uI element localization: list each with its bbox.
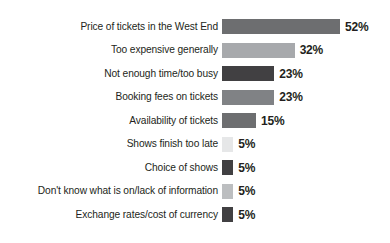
category-label: Choice of shows bbox=[145, 162, 218, 172]
bar bbox=[222, 160, 233, 175]
bar bbox=[222, 113, 256, 128]
chart-row: Choice of shows5% bbox=[0, 160, 390, 175]
bar bbox=[222, 184, 233, 199]
chart-row: Too expensive generally32% bbox=[0, 43, 390, 58]
bar bbox=[222, 207, 233, 222]
value-label: 15% bbox=[261, 114, 284, 128]
category-label: Not enough time/too busy bbox=[104, 68, 218, 78]
chart-row: Availability of tickets15% bbox=[0, 113, 390, 128]
value-label: 23% bbox=[279, 90, 302, 104]
category-label: Don't know what is on/lack of informatio… bbox=[38, 186, 218, 196]
chart-row: Don't know what is on/lack of informatio… bbox=[0, 184, 390, 199]
category-label: Shows finish too late bbox=[127, 139, 218, 149]
value-label: 5% bbox=[238, 184, 255, 198]
bar bbox=[222, 90, 274, 105]
bar bbox=[222, 66, 274, 81]
value-label: 52% bbox=[345, 20, 368, 34]
bar bbox=[222, 19, 340, 34]
category-label: Booking fees on tickets bbox=[116, 92, 218, 102]
category-label: Too expensive generally bbox=[111, 45, 218, 55]
chart-row: Shows finish too late5% bbox=[0, 137, 390, 152]
value-label: 23% bbox=[279, 67, 302, 81]
category-label: Exchange rates/cost of currency bbox=[76, 209, 218, 219]
value-label: 5% bbox=[238, 161, 255, 175]
chart-row: Exchange rates/cost of currency5% bbox=[0, 207, 390, 222]
chart-row: Price of tickets in the West End52% bbox=[0, 19, 390, 34]
chart-row: Not enough time/too busy23% bbox=[0, 66, 390, 81]
horizontal-bar-chart: Price of tickets in the West End52%Too e… bbox=[0, 0, 390, 243]
value-label: 32% bbox=[300, 43, 323, 57]
value-label: 5% bbox=[238, 137, 255, 151]
bar bbox=[222, 137, 233, 152]
bar bbox=[222, 43, 295, 58]
value-label: 5% bbox=[238, 208, 255, 222]
category-label: Price of tickets in the West End bbox=[80, 21, 218, 31]
category-label: Availability of tickets bbox=[129, 115, 218, 125]
chart-row: Booking fees on tickets23% bbox=[0, 90, 390, 105]
